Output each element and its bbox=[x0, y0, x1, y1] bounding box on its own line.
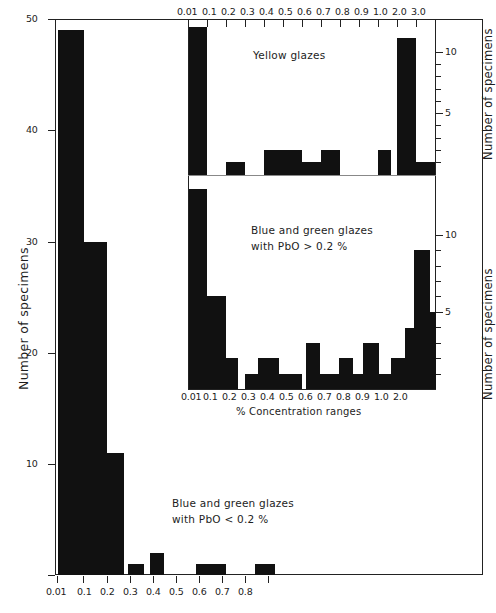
top-xtick-9 bbox=[359, 20, 360, 27]
main-bar-3 bbox=[128, 564, 144, 575]
yellow-bar-6 bbox=[302, 162, 321, 175]
yellow-bar-2 bbox=[226, 162, 245, 175]
main-ytick-label-50: 50 bbox=[26, 13, 38, 24]
main-annotation-line2: with PbO < 0.2 % bbox=[172, 513, 268, 525]
inset-bottom-ytick-5 bbox=[436, 312, 443, 313]
inset-top-ytick-minor-8 bbox=[436, 76, 441, 77]
top-xtick-label-7: 0.7 bbox=[316, 6, 331, 17]
top-xtick-label-9: 0.9 bbox=[354, 6, 369, 17]
bluegreen-bar-7b bbox=[353, 374, 363, 389]
main-xtick-6 bbox=[199, 576, 200, 583]
main-xtick-4 bbox=[153, 576, 154, 583]
main-ytick-label-40: 40 bbox=[26, 124, 38, 135]
inset-bottom-ytick-10 bbox=[436, 235, 443, 236]
top-xtick-label-8: 0.8 bbox=[335, 6, 350, 17]
top-xtick-4 bbox=[264, 20, 265, 27]
inset-bottom-ytick-minor-3 bbox=[436, 343, 441, 344]
main-xtick-label-3: 0.3 bbox=[123, 586, 138, 597]
main-xtick-3 bbox=[130, 576, 131, 583]
main-xtick-label-4: 0.4 bbox=[146, 586, 161, 597]
inset-top-ytick-minor-9 bbox=[436, 64, 441, 65]
top-xtick-7 bbox=[321, 20, 322, 27]
main-xtick-label-5: 0.5 bbox=[169, 586, 184, 597]
inset-top-ytick-minor-7 bbox=[436, 89, 441, 90]
inset-bottom-axis-line bbox=[188, 389, 436, 390]
top-xtick-11 bbox=[397, 20, 398, 27]
main-xtick-label-0: 0.01 bbox=[46, 586, 66, 597]
inset-xtick-label-0: 0.01 bbox=[181, 391, 201, 402]
bluegreen-bar-9b bbox=[405, 328, 414, 389]
top-xtick-label-5: 0.5 bbox=[278, 6, 293, 17]
main-xtick-label-2: 0.2 bbox=[100, 586, 115, 597]
main-ytick-label-30: 30 bbox=[26, 236, 38, 247]
top-xtick-2 bbox=[226, 20, 227, 27]
inset-xtick-label-1: 0.1 bbox=[203, 391, 218, 402]
bluegreen-annotation-line1: Blue and green glazes bbox=[251, 224, 373, 236]
main-ytick-40 bbox=[48, 130, 55, 131]
top-xtick-label-4: 0.4 bbox=[259, 6, 274, 17]
inset-bottom-ytick-minor-2 bbox=[436, 358, 441, 359]
bluegreen-bar-7 bbox=[339, 358, 353, 389]
main-bar-1 bbox=[84, 242, 107, 575]
main-xtick-0 bbox=[57, 576, 58, 583]
bluegreen-bar-1 bbox=[207, 296, 226, 389]
main-xtick-1 bbox=[83, 576, 84, 583]
top-xtick-8 bbox=[340, 20, 341, 27]
top-xtick-label-0: 0.01 bbox=[177, 6, 197, 17]
main-y-axis-line bbox=[55, 19, 56, 575]
bluegreen-annotation-line2: with PbO > 0.2 % bbox=[251, 240, 347, 252]
inset-xtick-label-9: 0.9 bbox=[355, 391, 370, 402]
bluegreen-bar-6b bbox=[320, 374, 339, 389]
inset-top-ytick-label-5: 5 bbox=[445, 107, 451, 118]
main-xtick-label-8: 0.8 bbox=[238, 586, 253, 597]
bluegreen-bar-8b bbox=[379, 374, 391, 389]
main-xtick-label-7: 0.7 bbox=[215, 586, 230, 597]
bluegreen-bar-10 bbox=[414, 250, 430, 389]
inset-bottom-ytick-minor-6 bbox=[436, 296, 441, 297]
bluegreen-bar-10b bbox=[430, 312, 436, 389]
top-xtick-label-3: 0.3 bbox=[240, 6, 255, 17]
inset-top-ytick-minor-6 bbox=[436, 101, 441, 102]
bluegreen-bar-4 bbox=[258, 358, 279, 389]
top-xtick-0 bbox=[188, 20, 189, 27]
inset-xtick-label-5: 0.5 bbox=[279, 391, 294, 402]
inset-bottom-ytick-minor-9 bbox=[436, 250, 441, 251]
main-ytick-50 bbox=[48, 19, 55, 20]
figure-canvas: 10 20 30 40 50 Number of specimens 0.01 … bbox=[0, 0, 496, 613]
inset-bottom-ytick-minor-1 bbox=[436, 374, 441, 375]
top-xtick-6 bbox=[302, 20, 303, 27]
yellow-bar-10 bbox=[397, 38, 416, 175]
bluegreen-bar-5 bbox=[279, 374, 302, 389]
inset-xtick-label-6: 0.6 bbox=[298, 391, 313, 402]
inset-bottom-ytick-label-10: 10 bbox=[445, 229, 457, 240]
top-xtick-label-2: 0.2 bbox=[221, 6, 236, 17]
main-xtick-2 bbox=[107, 576, 108, 583]
inset-xtick-label-11: 2.0 bbox=[393, 391, 408, 402]
inset-x-axis-title: % Concentration ranges bbox=[236, 406, 361, 417]
bluegreen-bar-6 bbox=[306, 343, 320, 389]
main-xtick-label-1: 0.1 bbox=[77, 586, 92, 597]
top-xtick-label-6: 0.6 bbox=[297, 6, 312, 17]
inset-xtick-label-10: 1.0 bbox=[374, 391, 389, 402]
main-xtick-9 bbox=[268, 576, 269, 583]
bluegreen-bar-9 bbox=[391, 358, 405, 389]
inset-top-ytick-minor-4 bbox=[436, 125, 441, 126]
top-xtick-13 bbox=[435, 20, 436, 27]
top-xtick-label-1: 0.1 bbox=[202, 6, 217, 17]
main-bar-5 bbox=[196, 564, 226, 575]
top-xtick-label-12: 3.0 bbox=[411, 6, 426, 17]
top-xtick-label-11: 2.0 bbox=[392, 6, 407, 17]
main-xtick-7 bbox=[222, 576, 223, 583]
inset-xtick-label-2: 0.2 bbox=[222, 391, 237, 402]
bluegreen-bar-8 bbox=[363, 343, 379, 389]
main-ytick-10 bbox=[48, 464, 55, 465]
inset-bottom-ytick-minor-4 bbox=[436, 327, 441, 328]
main-y-axis-title: Number of specimens bbox=[16, 247, 31, 390]
inset-bottom-ytick-label-5: 5 bbox=[445, 306, 451, 317]
yellow-bar-0 bbox=[189, 27, 207, 175]
main-xtick-5 bbox=[176, 576, 177, 583]
inset-xtick-label-3: 0.3 bbox=[241, 391, 256, 402]
main-bar-4 bbox=[150, 553, 164, 575]
yellow-bar-11 bbox=[416, 162, 435, 175]
main-ytick-0 bbox=[48, 575, 55, 576]
